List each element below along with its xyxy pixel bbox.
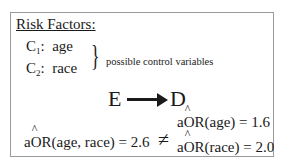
eq-prefix: a <box>24 134 31 150</box>
variable-name: race <box>52 60 77 76</box>
equation-adjusted-age: aOR(age) = 1.6 <box>177 114 270 131</box>
variable-c2: C2: race <box>26 60 77 78</box>
eq-prefix: a <box>177 139 184 155</box>
curly-brace-icon: } <box>91 40 100 70</box>
eq-suffix: R(age, race) = 2.6 <box>42 134 150 150</box>
risk-factors-title: Risk Factors: <box>16 16 96 33</box>
variable-name: age <box>52 38 73 54</box>
variable-label: C <box>26 60 36 76</box>
brace-label: possible control variables <box>106 56 213 67</box>
variable-subscript: 1 <box>36 46 41 56</box>
eq-prefix: a <box>177 114 184 130</box>
variable-subscript: 2 <box>36 68 41 78</box>
disease-node: D <box>170 86 186 112</box>
arrow-right-icon <box>157 93 168 107</box>
arrow-shaft <box>127 98 159 101</box>
eq-hat: O <box>184 139 195 155</box>
variable-label: C <box>26 38 36 54</box>
equation-adjusted-race: aOR(race) = 2.0 <box>177 139 274 156</box>
eq-suffix: R(race) = 2.0 <box>195 139 275 155</box>
exposure-node: E <box>108 86 121 112</box>
variable-c1: C1: age <box>26 38 73 56</box>
not-equal-operator: ≠ <box>158 128 169 151</box>
eq-hat: O <box>31 134 42 150</box>
eq-suffix: R(age) = 1.6 <box>195 114 271 130</box>
equation-adjusted-both: aOR(age, race) = 2.6 <box>24 134 150 151</box>
